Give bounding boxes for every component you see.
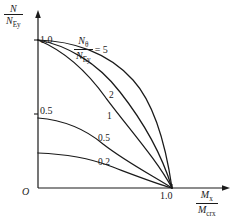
y-axis-denominator-sub: Ey xyxy=(13,21,21,29)
x-axis-title: Mx Mcrx xyxy=(196,190,218,218)
tick-label-y-1.0: 1.0 xyxy=(40,34,53,45)
curve-label-0.5: 0.5 xyxy=(98,133,110,143)
y-axis-denominator-base: N xyxy=(6,15,13,26)
legend-numerator-base: N xyxy=(78,35,85,46)
curve-label-1: 1 xyxy=(107,111,112,121)
tick-label-x-1.0: 1.0 xyxy=(160,190,173,201)
tick-label-y-0.5: 0.5 xyxy=(40,105,53,116)
legend-denominator-base: N xyxy=(76,50,83,61)
curve-label-2: 2 xyxy=(109,90,114,100)
x-axis-arrowhead xyxy=(222,185,230,191)
legend-denominator-sub: Ey xyxy=(83,56,91,64)
x-axis-numerator-sub: x xyxy=(209,195,213,203)
y-axis-arrowhead xyxy=(35,10,41,18)
legend-equals-value: = 5 xyxy=(93,45,108,55)
chart-container: N NEy Mx Mcrx Nθ NEy = 5 1.0 0.5 1.0 O 2… xyxy=(0,0,238,224)
x-axis-numerator-base: M xyxy=(201,189,209,200)
legend: Nθ NEy = 5 xyxy=(74,36,108,64)
legend-fraction: Nθ NEy xyxy=(74,36,93,64)
curve-series-0.5 xyxy=(38,118,172,188)
curve-label-0.2: 0.2 xyxy=(98,157,110,167)
legend-numerator-sub: θ xyxy=(85,41,88,49)
y-axis-numerator: N xyxy=(10,3,17,14)
origin-label: O xyxy=(22,186,29,197)
x-axis-denominator-sub: crx xyxy=(206,210,215,218)
y-axis-title: N NEy xyxy=(4,4,23,29)
